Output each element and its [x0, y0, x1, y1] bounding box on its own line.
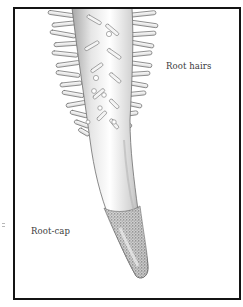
scan-artifact [2, 226, 5, 227]
label-root-cap: Root-cap [31, 227, 70, 236]
label-root-hairs: Root hairs [166, 62, 211, 71]
root-tip-illustration [0, 0, 243, 307]
scan-artifact [2, 223, 5, 224]
